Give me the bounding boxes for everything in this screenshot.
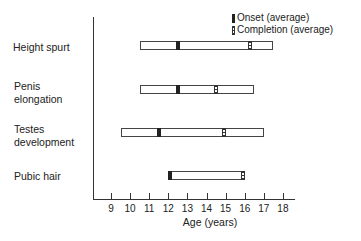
completion-marker bbox=[241, 171, 245, 180]
x-tick bbox=[187, 193, 188, 199]
legend-onset-label: Onset (average) bbox=[237, 12, 309, 24]
x-tick bbox=[226, 193, 227, 199]
row-label-testes-development: Testes development bbox=[14, 123, 74, 149]
onset-marker bbox=[157, 128, 161, 137]
x-tick-label: 16 bbox=[235, 203, 255, 214]
legend-onset: Onset (average) bbox=[232, 12, 333, 24]
range-bar bbox=[140, 41, 274, 50]
puberty-timeline-chart: Height spurt Penis elongation Testes dev… bbox=[0, 0, 361, 241]
x-tick-label: 14 bbox=[197, 203, 217, 214]
completion-marker bbox=[248, 41, 252, 50]
row-label-pubic-hair: Pubic hair bbox=[14, 170, 61, 183]
x-tick bbox=[207, 193, 208, 199]
x-tick-label: 12 bbox=[158, 203, 178, 214]
range-bar bbox=[121, 128, 264, 137]
completion-marker bbox=[222, 128, 226, 137]
x-tick bbox=[283, 193, 284, 199]
legend-completion-label: Completion (average) bbox=[237, 24, 333, 36]
x-tick bbox=[245, 193, 246, 199]
onset-marker bbox=[176, 41, 180, 50]
x-tick-label: 17 bbox=[254, 203, 274, 214]
onset-swatch-icon bbox=[232, 14, 235, 23]
row-label-penis-elongation: Penis elongation bbox=[14, 80, 62, 106]
legend-completion: Completion (average) bbox=[232, 24, 333, 36]
x-tick-label: 15 bbox=[216, 203, 236, 214]
x-tick bbox=[149, 193, 150, 199]
x-axis bbox=[93, 199, 295, 200]
legend: Onset (average) Completion (average) bbox=[232, 12, 333, 36]
x-tick bbox=[168, 193, 169, 199]
row-label-height-spurt: Height spurt bbox=[13, 41, 70, 54]
range-bar bbox=[168, 171, 244, 180]
x-tick bbox=[264, 193, 265, 199]
completion-swatch-icon bbox=[232, 26, 235, 35]
y-axis bbox=[93, 17, 94, 200]
onset-marker bbox=[168, 171, 172, 180]
onset-marker bbox=[176, 85, 180, 94]
range-bar bbox=[140, 85, 255, 94]
x-axis-label: Age (years) bbox=[160, 216, 260, 228]
completion-marker bbox=[214, 85, 218, 94]
x-tick bbox=[111, 193, 112, 199]
x-tick-label: 11 bbox=[139, 203, 159, 214]
x-tick-label: 9 bbox=[101, 203, 121, 214]
x-tick-label: 18 bbox=[273, 203, 293, 214]
x-tick bbox=[130, 193, 131, 199]
x-tick-label: 10 bbox=[120, 203, 140, 214]
x-tick-label: 13 bbox=[177, 203, 197, 214]
